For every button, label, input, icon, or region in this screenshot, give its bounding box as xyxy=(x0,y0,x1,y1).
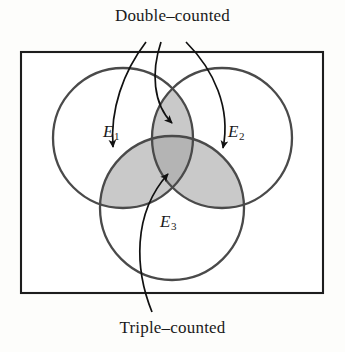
set-label-e2-base: E xyxy=(228,122,238,141)
caption-double-counted: Double–counted xyxy=(0,6,345,26)
set-label-e3-subscript: 3 xyxy=(171,220,177,232)
set-label-e3: E3 xyxy=(160,212,176,232)
set-label-e1-base: E xyxy=(103,122,113,141)
caption-triple-counted: Triple–counted xyxy=(0,318,345,338)
set-label-e2-subscript: 2 xyxy=(239,130,245,142)
set-label-e3-base: E xyxy=(160,212,170,231)
set-label-e1-subscript: 1 xyxy=(114,130,120,142)
venn-diagram-figure: Double–counted Triple–counted E1 E2 E3 xyxy=(0,0,345,352)
venn-diagram-canvas xyxy=(0,0,345,352)
set-label-e1: E1 xyxy=(103,122,119,142)
set-label-e2: E2 xyxy=(228,122,244,142)
